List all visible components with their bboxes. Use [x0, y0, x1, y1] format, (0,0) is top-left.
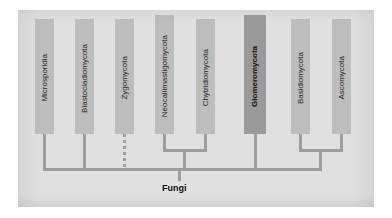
branch-blastocladiomycota [83, 134, 86, 170]
taxon-bar-blastocladiomycota[interactable]: Blastocladiomycota [75, 19, 94, 134]
branch-microsporidia [43, 134, 46, 170]
taxon-bar-glomeromycota[interactable]: Glomeromycota [244, 15, 266, 134]
root-label-fungi: Fungi [162, 183, 187, 193]
clade-stem-chytrid-group [183, 149, 186, 170]
clade-stem-dikarya [319, 149, 322, 170]
diagram-panel: Microsporidia Blastocladiomycota Zygomyc… [18, 10, 374, 207]
taxon-label-chytridiomycota: Chytridiomycota [202, 46, 210, 106]
taxon-bar-neocallimastigomycota[interactable]: Neocallimastigomycota [155, 15, 174, 134]
taxon-bar-ascomycota[interactable]: Ascomycota [332, 19, 351, 134]
taxon-label-neocallimastigomycota: Neocallimastigomycota [161, 32, 169, 117]
taxon-bar-microsporidia[interactable]: Microsporidia [35, 19, 54, 134]
taxon-label-basidiomycota: Basidiomycota [297, 49, 305, 104]
taxon-label-blastocladiomycota: Blastocladiomycota [81, 41, 89, 113]
root-stem [178, 168, 181, 181]
taxon-label-zygomycota: Zygomycota [121, 53, 129, 100]
taxon-label-microsporidia: Microsporidia [41, 51, 49, 102]
taxon-bar-basidiomycota[interactable]: Basidiomycota [291, 19, 310, 134]
taxon-bar-chytridiomycota[interactable]: Chytridiomycota [196, 19, 215, 134]
branch-glomeromycota [254, 134, 257, 170]
taxon-bar-zygomycota[interactable]: Zygomycota [115, 19, 134, 134]
phylogenetic-tree-figure: Microsporidia Blastocladiomycota Zygomyc… [0, 0, 392, 218]
branch-zygomycota-uncertain [123, 134, 126, 170]
tree-backbone [43, 168, 322, 171]
taxon-label-ascomycota: Ascomycota [338, 53, 346, 100]
taxon-label-glomeromycota: Glomeromycota [251, 43, 259, 107]
